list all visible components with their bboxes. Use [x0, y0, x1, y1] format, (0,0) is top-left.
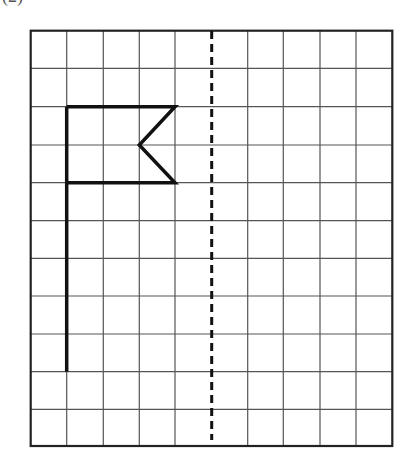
- grid-diagram: [0, 0, 404, 465]
